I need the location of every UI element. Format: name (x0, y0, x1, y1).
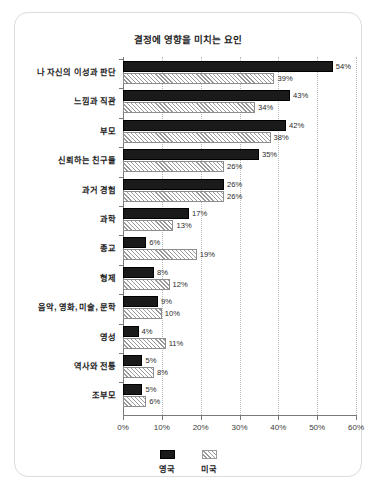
bar-미국-역사와 전통[interactable] (123, 367, 154, 378)
bar-value-label: 38% (274, 132, 289, 143)
bar-영국-느낌과 직관[interactable] (123, 90, 290, 101)
category-label: 나 자신의 이성과 판단 (0, 65, 116, 77)
bar-미국-나 자신의 이성과 판단[interactable] (123, 73, 274, 84)
bar-영국-과학[interactable] (123, 208, 189, 219)
bar-영국-음악, 영화, 미술, 문학[interactable] (123, 296, 158, 307)
bar-value-label: 11% (169, 338, 184, 349)
x-tick-30% (240, 415, 241, 420)
legend-label-us: 미국 (201, 462, 217, 474)
category-label: 음악, 영화, 미술, 문학 (0, 300, 116, 312)
legend-label-uk: 영국 (159, 462, 175, 474)
category-label: 영성 (0, 330, 116, 342)
chart-row: 부모42%38% (123, 118, 356, 144)
category-label: 신뢰하는 친구들 (0, 153, 116, 165)
plot-area: 0%10%20%30%40%50%60%나 자신의 이성과 판단54%39%느낌… (123, 57, 356, 415)
chart-card: 결정에 영향을 미치는 요인 0%10%20%30%40%50%60%나 자신의… (14, 12, 362, 477)
x-tick-label-0%: 0% (117, 423, 129, 432)
bar-value-label: 54% (336, 61, 351, 72)
bar-value-label: 13% (176, 220, 191, 231)
bar-미국-영성[interactable] (123, 338, 166, 349)
bar-value-label: 19% (200, 249, 215, 260)
x-tick-10% (162, 415, 163, 420)
bar-value-label: 12% (173, 279, 188, 290)
category-tick (119, 324, 123, 325)
bar-value-label: 43% (293, 90, 308, 101)
x-tick-label-40%: 40% (270, 423, 286, 432)
bar-value-label: 8% (157, 367, 168, 378)
bar-value-label: 42% (289, 120, 304, 131)
category-tick (119, 235, 123, 236)
bar-미국-신뢰하는 친구들[interactable] (123, 161, 224, 172)
x-tick-label-20%: 20% (193, 423, 209, 432)
bar-value-label: 6% (149, 396, 160, 407)
bar-영국-종교[interactable] (123, 237, 146, 248)
bar-영국-부모[interactable] (123, 120, 286, 131)
category-label: 종교 (0, 241, 116, 253)
bar-미국-조부모[interactable] (123, 396, 146, 407)
category-tick (119, 118, 123, 119)
hatched-swatch-icon (202, 450, 217, 459)
chart-row: 역사와 전통5%8% (123, 353, 356, 379)
x-tick-label-10%: 10% (154, 423, 170, 432)
chart-row: 조부모5%6% (123, 382, 356, 408)
bar-value-label: 17% (192, 208, 207, 219)
x-tick-label-30%: 30% (231, 423, 247, 432)
legend-item-us[interactable]: 미국 (201, 450, 217, 474)
bar-영국-조부모[interactable] (123, 384, 142, 395)
bar-영국-형제[interactable] (123, 267, 154, 278)
bar-value-label: 9% (161, 296, 172, 307)
category-label: 역사와 전통 (0, 359, 116, 371)
bar-value-label: 6% (149, 237, 160, 248)
category-tick (119, 88, 123, 89)
bar-미국-과거 경험[interactable] (123, 191, 224, 202)
chart-title: 결정에 영향을 미치는 요인 (15, 32, 361, 46)
category-label: 조부모 (0, 388, 116, 400)
chart-legend: 영국 미국 (15, 450, 361, 474)
bar-value-label: 8% (157, 267, 168, 278)
category-tick (119, 353, 123, 354)
bar-value-label: 26% (227, 179, 242, 190)
bar-value-label: 5% (145, 355, 156, 366)
category-tick (119, 294, 123, 295)
category-label: 과거 경험 (0, 183, 116, 195)
category-label: 부모 (0, 124, 116, 136)
bar-value-label: 4% (142, 326, 153, 337)
bar-미국-과학[interactable] (123, 220, 173, 231)
chart-row: 종교6%19% (123, 235, 356, 261)
category-tick (119, 265, 123, 266)
chart-row: 나 자신의 이성과 판단54%39% (123, 59, 356, 85)
category-tick (119, 59, 123, 60)
bar-미국-형제[interactable] (123, 279, 170, 290)
bar-미국-음악, 영화, 미술, 문학[interactable] (123, 308, 162, 319)
bar-미국-종교[interactable] (123, 249, 197, 260)
x-tick-20% (201, 415, 202, 420)
chart-row: 영성4%11% (123, 324, 356, 350)
category-label: 느낌과 직관 (0, 94, 116, 106)
x-tick-label-50%: 50% (309, 423, 325, 432)
bar-영국-신뢰하는 친구들[interactable] (123, 149, 259, 160)
gridline-60% (356, 57, 357, 415)
category-tick (119, 177, 123, 178)
bar-value-label: 26% (227, 191, 242, 202)
bar-미국-느낌과 직관[interactable] (123, 102, 255, 113)
bar-value-label: 34% (258, 102, 273, 113)
bar-value-label: 10% (165, 308, 180, 319)
chart-row: 과학17%13% (123, 206, 356, 232)
bar-value-label: 5% (145, 384, 156, 395)
x-tick-40% (278, 415, 279, 420)
legend-item-uk[interactable]: 영국 (159, 450, 175, 474)
bar-value-label: 35% (262, 149, 277, 160)
solid-black-swatch-icon (160, 450, 175, 459)
bar-value-label: 39% (277, 73, 292, 84)
x-tick-0% (123, 415, 124, 420)
bar-영국-과거 경험[interactable] (123, 179, 224, 190)
bar-영국-영성[interactable] (123, 326, 139, 337)
bar-value-label: 26% (227, 161, 242, 172)
chart-row: 형제8%12% (123, 265, 356, 291)
bar-영국-역사와 전통[interactable] (123, 355, 142, 366)
bar-미국-부모[interactable] (123, 132, 271, 143)
x-tick-50% (317, 415, 318, 420)
bar-영국-나 자신의 이성과 판단[interactable] (123, 61, 333, 72)
chart-row: 느낌과 직관43%34% (123, 88, 356, 114)
category-tick (119, 147, 123, 148)
